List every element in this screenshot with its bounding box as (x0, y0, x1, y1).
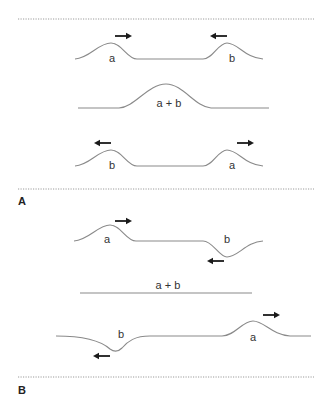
panel-a-row-overlap: a + b (78, 84, 269, 109)
pulse-label-a: a (104, 233, 111, 245)
panel-label-b: B (18, 384, 26, 396)
panel-a-row-after: b a (75, 140, 263, 171)
panel-b: a b a + b b a (56, 218, 311, 359)
wave-line (74, 225, 263, 257)
arrow-right-icon (115, 33, 132, 39)
panel-label-a: A (18, 195, 26, 207)
panel-b-row-before: a b (74, 218, 263, 264)
panel-a: a b a + b b a (75, 33, 269, 171)
arrow-right-icon (237, 140, 254, 146)
sum-label: a + b (157, 97, 182, 109)
panel-a-row-before: a b (75, 33, 263, 64)
superposition-diagram: a b a + b b a A a b (0, 0, 333, 406)
arrow-left-icon (210, 33, 227, 39)
arrow-right-icon (263, 312, 280, 318)
pulse-label-a: a (109, 52, 116, 64)
panel-b-row-overlap: a + b (80, 279, 252, 293)
panel-b-row-after: b a (56, 312, 311, 359)
wave-line (56, 321, 311, 351)
pulse-label-b: b (118, 328, 124, 340)
arrow-left-icon (207, 258, 224, 264)
arrow-left-icon (94, 140, 111, 146)
pulse-label-b: b (229, 52, 235, 64)
arrow-right-icon (115, 218, 132, 224)
pulse-label-a: a (250, 331, 257, 343)
arrow-left-icon (93, 353, 110, 359)
pulse-label-a: a (229, 159, 236, 171)
pulse-label-b: b (109, 159, 115, 171)
sum-label: a + b (156, 279, 181, 291)
pulse-label-b: b (224, 233, 230, 245)
